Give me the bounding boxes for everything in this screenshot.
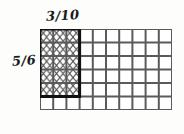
top-fraction-label: 3/10 (46, 8, 80, 23)
grid-svg (40, 29, 172, 110)
area-model-grid (40, 29, 172, 110)
shaded-overlap-region (40, 29, 80, 97)
figure-canvas: 3/10 5/6 (0, 0, 184, 134)
left-fraction-label: 5/6 (12, 53, 37, 68)
